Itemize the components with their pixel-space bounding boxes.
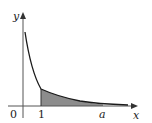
shaded-area	[41, 89, 103, 106]
tick-label-a: a	[99, 108, 106, 121]
tick-label-one: 1	[38, 108, 45, 121]
x-axis-label: x	[133, 109, 140, 122]
origin-label: 0	[10, 108, 17, 121]
y-axis-arrow-icon	[20, 12, 26, 19]
curve	[25, 32, 128, 105]
y-axis-label: y	[12, 10, 20, 23]
diagram-canvas: y x 0 1 a	[0, 0, 152, 123]
